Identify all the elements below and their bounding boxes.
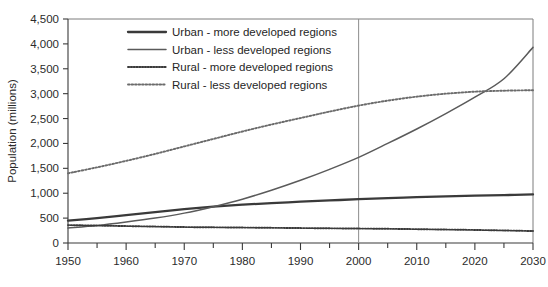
x-tick-label: 2030 [520,255,546,267]
y-tick-label: 1,000 [30,187,59,199]
y-tick-label: 3,500 [30,63,59,75]
series-line [68,194,533,220]
x-tick-label: 1950 [55,255,81,267]
series-line [68,225,533,231]
population-line-chart: 05001,0001,5002,0002,5003,0003,5004,0004… [0,0,548,287]
x-tick-label: 2020 [462,255,488,267]
y-tick-label: 4,000 [30,38,59,50]
y-tick-label: 3,000 [30,88,59,100]
y-tick-label: 0 [53,237,59,249]
legend: Urban - more developed regionsUrban - le… [128,26,337,91]
y-axis-title: Population (millions) [6,79,18,183]
y-tick-label: 1,500 [30,162,59,174]
x-tick-label: 2000 [346,255,372,267]
x-tick-label: 1990 [288,255,314,267]
legend-label: Rural - more developed regions [172,61,333,73]
chart-canvas: 05001,0001,5002,0002,5003,0003,5004,0004… [0,0,548,287]
series-group [68,47,533,231]
x-tick-label: 1970 [171,255,197,267]
y-tick-label: 2,500 [30,113,59,125]
y-tick-label: 2,000 [30,137,59,149]
y-axis-group: 05001,0001,5002,0002,5003,0003,5004,0004… [30,13,68,249]
series-line [68,90,533,173]
legend-label: Urban - more developed regions [172,26,337,38]
legend-label: Urban - less developed regions [172,44,331,56]
y-tick-label: 500 [40,212,59,224]
x-tick-label: 2010 [404,255,430,267]
legend-label: Rural - less developed regions [172,79,328,91]
x-tick-label: 1980 [230,255,256,267]
y-tick-label: 4,500 [30,13,59,25]
x-axis-group: 195019601970198019902000201020202030 [55,243,546,267]
x-tick-label: 1960 [113,255,139,267]
